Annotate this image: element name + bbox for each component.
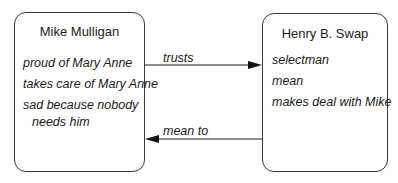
edge-label-mean-to: mean to	[163, 124, 208, 138]
attribute: takes care of Mary Anne	[23, 76, 158, 93]
mean-to-arrowhead-icon	[145, 135, 159, 143]
attribute: selectman	[272, 52, 392, 69]
attribute: proud of Mary Anne	[23, 55, 158, 72]
attribute: makes deal with Mike	[272, 94, 392, 111]
attribute-continuation: needs him	[23, 114, 158, 131]
trusts-arrowhead-icon	[248, 61, 262, 69]
node-title: Mike Mulligan	[15, 24, 144, 39]
node-attributes: selectman mean makes deal with Mike	[272, 52, 392, 115]
node-title: Henry B. Swap	[263, 26, 387, 41]
node-henry-b-swap: Henry B. Swap selectman mean makes deal …	[262, 13, 388, 172]
attribute: sad because nobody	[23, 97, 158, 114]
node-attributes: proud of Mary Anne takes care of Mary An…	[23, 55, 158, 135]
attribute: mean	[272, 73, 392, 90]
edge-label-trusts: trusts	[163, 51, 194, 65]
node-mike-mulligan: Mike Mulligan proud of Mary Anne takes c…	[14, 12, 145, 172]
